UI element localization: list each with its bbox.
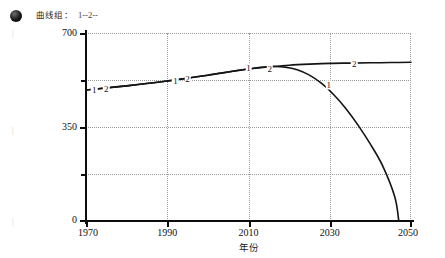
x-tick-1990 (167, 220, 169, 227)
y-tick-label-700: 700 (62, 28, 77, 38)
x-tick-label-2030: 2030 (320, 228, 340, 238)
series-label-2: 2 (184, 75, 191, 84)
y-tick-label-350: 350 (62, 122, 77, 132)
x-tick-2010 (249, 220, 251, 227)
y-tick-label-0: 0 (72, 215, 77, 225)
series-line-1 (86, 67, 399, 221)
series-label-2: 2 (267, 64, 274, 73)
chart-legend: 曲线组： 1--2-- (0, 4, 445, 26)
x-tick-label-2050: 2050 (398, 228, 418, 238)
x-tick-1970 (86, 220, 88, 227)
x-axis-title: 年份 (239, 242, 259, 253)
series-label-2: 2 (103, 85, 110, 94)
filled-circle-marker-icon (10, 10, 22, 22)
legend-label: 曲线组： (36, 10, 73, 21)
series-label-1: 1 (172, 76, 179, 85)
series-lines (86, 33, 411, 221)
x-tick-2050 (410, 220, 412, 227)
chart-figure: 曲线组： 1--2-- | | | 700 350 0 1970 1990 20… (0, 0, 445, 258)
x-tick-2030 (330, 220, 332, 227)
series-label-1: 1 (91, 86, 98, 95)
series-label-1: 1 (325, 81, 332, 90)
x-tick-label-1970: 1970 (78, 228, 98, 238)
x-tick-label-2010: 2010 (239, 228, 259, 238)
margin-mark: | (12, 218, 16, 226)
x-tick-label-1990: 1990 (157, 228, 177, 238)
margin-mark: | (12, 127, 16, 135)
series-label-2: 2 (351, 60, 358, 69)
plot-area: 700 350 0 1970 1990 2010 2030 2050 年份 1 … (86, 33, 411, 221)
margin-mark: | (12, 30, 16, 38)
legend-series-keys: 1--2-- (78, 10, 98, 21)
series-label-1: 1 (245, 63, 252, 72)
